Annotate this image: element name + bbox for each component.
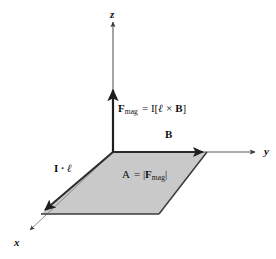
f-mag-subscript: mag [152,173,165,182]
area-close-bar: | [165,168,167,180]
area-label: A= |Fmag| [122,169,167,182]
f-mag-symbol: F [145,168,152,180]
f-mag-close-bracket: ] [183,102,187,114]
area-symbol: A [122,168,130,180]
area-equals-open: = | [134,168,145,180]
length-symbol: ℓ [158,102,163,114]
physics-diagram: z y x B I·ℓ Fmag= I[ℓ×B] A= |Fmag| [0,0,276,259]
b-field-label: B [165,129,172,140]
f-mag-formula: Fmag= I[ℓ×B] [118,103,186,116]
current-symbol: I [54,162,58,174]
dot-operator-icon: · [61,162,65,174]
diagram-canvas [0,0,276,259]
length-symbol: ℓ [67,162,72,174]
f-mag-equals-open: = I[ [142,102,158,114]
current-length-label: I·ℓ [54,163,72,174]
y-axis-label: y [264,146,269,157]
x-axis-label: x [14,237,20,248]
f-mag-symbol: F [118,102,125,114]
cross-product-icon: × [166,102,172,114]
f-mag-subscript: mag [125,107,138,116]
b-field-symbol: B [175,102,182,114]
z-axis-label: z [110,9,114,20]
